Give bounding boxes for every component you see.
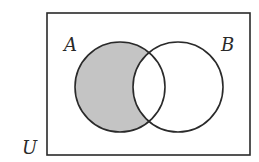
set-a-label: A	[64, 36, 77, 54]
set-b-label: B	[221, 36, 234, 54]
universe-label: U	[22, 139, 37, 157]
venn-diagram	[0, 0, 259, 162]
